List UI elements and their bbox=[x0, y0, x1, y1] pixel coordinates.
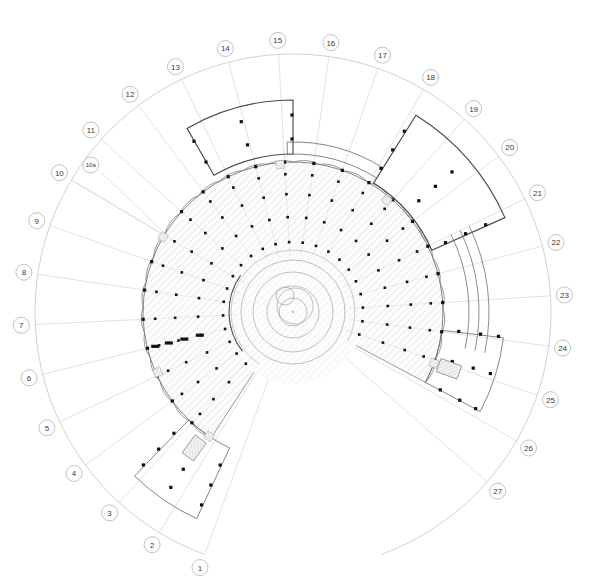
grid-bubble-label-2: 2 bbox=[150, 541, 155, 550]
column-wing-north-canopy bbox=[240, 120, 243, 123]
grid-bubble-15[interactable]: 15 bbox=[270, 32, 286, 48]
column-wing-southeast-wing bbox=[439, 388, 442, 391]
column-3-r4 bbox=[199, 413, 202, 416]
grid-bubble-label-19: 19 bbox=[469, 105, 478, 114]
column-20-r5 bbox=[411, 220, 414, 223]
grid-bubble-8[interactable]: 8 bbox=[16, 264, 32, 280]
grid-bubble-20[interactable]: 20 bbox=[502, 140, 518, 156]
west-mullion-4 bbox=[151, 345, 159, 348]
column-15-r2 bbox=[286, 216, 289, 219]
grid-bubble-10[interactable]: 10 bbox=[51, 165, 67, 181]
column-8-r1 bbox=[222, 300, 225, 303]
grid-bubble-5[interactable]: 5 bbox=[39, 420, 55, 436]
column-4-r4 bbox=[181, 393, 184, 396]
column-12-r3 bbox=[221, 216, 224, 219]
column-17-r1 bbox=[315, 245, 318, 248]
column-24-r5 bbox=[440, 330, 443, 333]
grid-bubble-13[interactable]: 13 bbox=[167, 59, 183, 75]
grid-bubble-label-20: 20 bbox=[505, 143, 514, 152]
grid-bubble-2[interactable]: 2 bbox=[144, 537, 160, 553]
column-wing-southeast-wing bbox=[457, 330, 460, 333]
column-21-r3 bbox=[398, 259, 401, 262]
column-3-r1 bbox=[245, 362, 248, 365]
grid-bubble-label-12: 12 bbox=[126, 90, 135, 99]
column-4-r5 bbox=[171, 399, 174, 402]
column-12-r4 bbox=[209, 200, 212, 203]
grid-bubble-11[interactable]: 11 bbox=[83, 122, 99, 138]
column-17-r4 bbox=[337, 180, 340, 183]
column-19-r3 bbox=[370, 222, 373, 225]
grid-bubble-label-17: 17 bbox=[378, 51, 387, 60]
column-19-r2 bbox=[355, 240, 358, 243]
grid-bubble-16[interactable]: 16 bbox=[323, 35, 339, 51]
grid-bubble-label-15: 15 bbox=[273, 36, 282, 45]
column-16-r4 bbox=[311, 174, 314, 177]
grid-bubble-25[interactable]: 25 bbox=[542, 392, 558, 408]
column-24-r3 bbox=[409, 326, 412, 329]
column-13-r5 bbox=[227, 175, 230, 178]
column-14-r2 bbox=[268, 219, 271, 222]
core-centre-point bbox=[292, 311, 294, 313]
grid-bubble-22[interactable]: 22 bbox=[548, 235, 564, 251]
grid-bubble-label-1: 1 bbox=[198, 564, 203, 573]
column-23-r3 bbox=[409, 303, 412, 306]
column-23-r4 bbox=[429, 302, 432, 305]
column-14-r4 bbox=[257, 177, 260, 180]
grid-bubble-24[interactable]: 24 bbox=[555, 340, 571, 356]
column-6-r3 bbox=[177, 339, 180, 342]
grid-bubble-label-5: 5 bbox=[45, 424, 50, 433]
column-19-r1 bbox=[338, 258, 341, 261]
column-5-r3 bbox=[185, 361, 188, 364]
grid-bubble-label-3: 3 bbox=[107, 509, 112, 518]
column-wing-southwest-wing bbox=[172, 432, 175, 435]
column-22-r1 bbox=[359, 293, 362, 296]
column-24-r1 bbox=[361, 320, 364, 323]
grid-bubble-label-27: 27 bbox=[493, 487, 502, 496]
grid-bubble-9[interactable]: 9 bbox=[29, 213, 45, 229]
grid-bubble-17[interactable]: 17 bbox=[374, 47, 390, 63]
grid-bubble-26[interactable]: 26 bbox=[521, 440, 537, 456]
column-18-r1 bbox=[327, 250, 330, 253]
grid-bubble-label-10a: 10a bbox=[86, 162, 97, 168]
grid-bubble-1[interactable]: 1 bbox=[192, 560, 208, 576]
column-15-r1 bbox=[288, 241, 291, 244]
column-21-r4 bbox=[416, 250, 419, 253]
column-20-r1 bbox=[347, 268, 350, 271]
grid-bubble-12[interactable]: 12 bbox=[122, 86, 138, 102]
grid-bubble-27[interactable]: 27 bbox=[490, 483, 506, 499]
column-10-r2 bbox=[210, 262, 213, 265]
column-9-r2 bbox=[202, 279, 205, 282]
column-wing-southwest-wing bbox=[157, 448, 160, 451]
column-wing-southeast-wing bbox=[458, 399, 461, 402]
column-wing-southwest-wing bbox=[209, 483, 212, 486]
column-wing-southwest-wing bbox=[169, 486, 172, 489]
column-5-r2 bbox=[206, 351, 209, 354]
grid-bubble-23[interactable]: 23 bbox=[556, 287, 572, 303]
grid-bubble-18[interactable]: 18 bbox=[423, 69, 439, 85]
grid-bubble-14[interactable]: 14 bbox=[217, 41, 233, 57]
column-23-r5 bbox=[441, 301, 444, 304]
grid-bubble-label-8: 8 bbox=[22, 268, 27, 277]
column-wing-east-pavilion bbox=[391, 148, 394, 151]
grid-bubble-4[interactable]: 4 bbox=[66, 465, 82, 481]
column-7-r1 bbox=[222, 314, 225, 317]
column-8-r5 bbox=[143, 288, 146, 291]
grid-bubble-label-23: 23 bbox=[560, 291, 569, 300]
grid-bubble-3[interactable]: 3 bbox=[102, 505, 118, 521]
grid-bubble-19[interactable]: 19 bbox=[466, 101, 482, 117]
column-wing-southeast-wing bbox=[497, 335, 500, 338]
floor-plan-drawing: 1234567891010a11121314151617181920212223… bbox=[0, 0, 594, 580]
grid-bubble-7[interactable]: 7 bbox=[13, 317, 29, 333]
grid-bubble-label-11: 11 bbox=[87, 126, 96, 135]
column-11-r5 bbox=[180, 210, 183, 213]
grid-bubble-6[interactable]: 6 bbox=[21, 370, 37, 386]
column-18-r3 bbox=[351, 209, 354, 212]
column-9-r1 bbox=[226, 287, 229, 290]
grid-bubble-21[interactable]: 21 bbox=[529, 185, 545, 201]
grid-bubble-10a[interactable]: 10a bbox=[83, 157, 99, 173]
column-17-r3 bbox=[331, 199, 334, 202]
column-12-r5 bbox=[202, 190, 205, 193]
column-3-r5 bbox=[190, 421, 193, 424]
column-8-r2 bbox=[198, 297, 201, 300]
column-wing-southeast-wing bbox=[474, 407, 477, 410]
